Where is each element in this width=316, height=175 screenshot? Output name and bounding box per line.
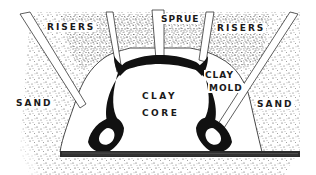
risers-right-label: RISERS bbox=[216, 23, 266, 33]
sprue-label: SPRUE bbox=[160, 14, 200, 24]
clay-mold-label-line2: MOLD bbox=[208, 83, 244, 93]
clay-mold-label-line1: CLAY bbox=[204, 70, 235, 80]
clay-core-label-line1: CLAY bbox=[141, 91, 178, 101]
risers-left-label: RISERS bbox=[46, 22, 96, 32]
base-plate bbox=[60, 151, 300, 157]
clay-core-label-line2: CORE bbox=[141, 108, 180, 118]
sand-left-label: SAND bbox=[15, 98, 53, 108]
sand-right-label: SAND bbox=[256, 99, 294, 109]
casting-mold-diagram: RISERS SPRUE RISERS SAND SAND CLAY MOLD … bbox=[0, 0, 316, 175]
